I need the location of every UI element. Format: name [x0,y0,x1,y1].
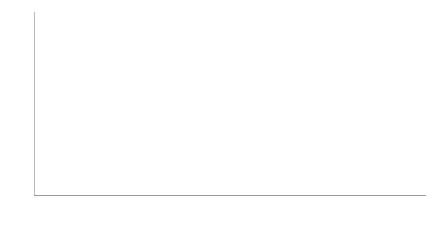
chart-container [0,0,433,229]
plot-area [34,12,426,196]
bar-columns-group [34,12,426,196]
